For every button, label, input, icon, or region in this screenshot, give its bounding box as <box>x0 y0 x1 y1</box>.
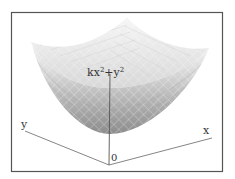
origin-label: 0 <box>111 152 117 163</box>
surface-label: kx2+y2 <box>87 66 124 79</box>
y-axis-label: y <box>20 118 28 131</box>
paraboloid-figure: kx2+y2 y x 0 <box>0 0 235 179</box>
x-axis-label: x <box>203 124 210 137</box>
